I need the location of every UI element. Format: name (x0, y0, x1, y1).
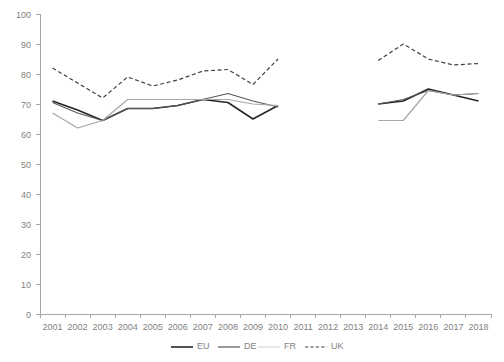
legend-item-eu[interactable]: EU (171, 341, 210, 351)
x-tick-label: 2018 (468, 322, 488, 332)
x-tick-label: 2002 (68, 322, 88, 332)
x-tick-label: 2008 (218, 322, 238, 332)
x-tick-label: 2010 (268, 322, 288, 332)
legend-label-eu: EU (197, 341, 210, 351)
y-tick-label: 80 (21, 70, 31, 80)
y-tick-label: 50 (21, 160, 31, 170)
legend-label-uk: UK (331, 341, 344, 351)
y-tick-label: 70 (21, 100, 31, 110)
y-tick-label: 100 (16, 10, 31, 20)
x-tick-label: 2003 (93, 322, 113, 332)
x-tick-label: 2015 (393, 322, 413, 332)
chart-legend: EUDEFRUK (171, 341, 344, 351)
legend-item-fr[interactable]: FR (258, 341, 296, 351)
chart-canvas: 0102030405060708090100 20012002200320042… (0, 0, 504, 362)
y-tick-label: 10 (21, 280, 31, 290)
x-tick-label: 2001 (43, 322, 63, 332)
x-tick-label: 2006 (168, 322, 188, 332)
x-tick-label: 2004 (118, 322, 138, 332)
legend-item-uk[interactable]: UK (305, 341, 344, 351)
y-tick-label: 40 (21, 190, 31, 200)
y-tick-label: 20 (21, 250, 31, 260)
y-tick-label: 60 (21, 130, 31, 140)
series-line-de (53, 94, 279, 121)
series-layer (53, 44, 479, 128)
legend-label-fr: FR (284, 341, 296, 351)
x-tick-label: 2017 (443, 322, 463, 332)
y-tick-label: 0 (26, 310, 31, 320)
y-axis: 0102030405060708090100 (16, 10, 40, 320)
x-tick-label: 2005 (143, 322, 163, 332)
x-tick-label: 2007 (193, 322, 213, 332)
x-tick-label: 2009 (243, 322, 263, 332)
x-tick-label: 2013 (343, 322, 363, 332)
legend-label-de: DE (244, 341, 257, 351)
y-tick-label: 30 (21, 220, 31, 230)
legend-item-de[interactable]: DE (218, 341, 257, 351)
x-tick-label: 2011 (293, 322, 312, 332)
x-tick-label: 2012 (318, 322, 338, 332)
y-tick-label: 90 (21, 40, 31, 50)
x-axis: 2001200220032004200520062007200820092010… (40, 314, 491, 332)
series-line-uk (378, 44, 478, 65)
series-line-uk (53, 59, 279, 98)
x-tick-label: 2014 (368, 322, 388, 332)
x-tick-label: 2016 (418, 322, 438, 332)
line-chart: 0102030405060708090100 20012002200320042… (0, 0, 504, 362)
series-line-fr (378, 91, 478, 121)
